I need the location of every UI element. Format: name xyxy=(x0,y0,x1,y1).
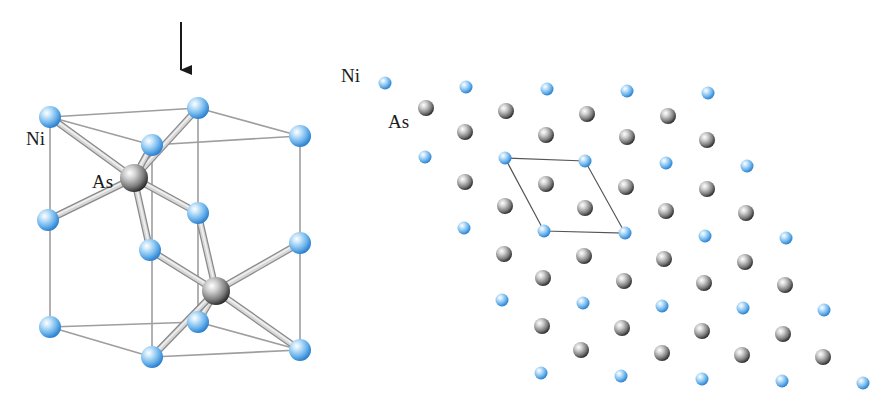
as-atom xyxy=(538,127,554,143)
as-atom xyxy=(202,277,230,305)
ni-atom xyxy=(460,81,473,94)
ni-atom xyxy=(496,294,509,307)
ni-atom xyxy=(187,311,209,333)
as-atom xyxy=(737,254,753,270)
ni-atom xyxy=(289,232,311,254)
as-atom xyxy=(577,200,593,216)
as-atom xyxy=(614,320,630,336)
ni-atom xyxy=(776,375,789,388)
cell-edge xyxy=(50,322,198,327)
ni-atom xyxy=(39,316,61,338)
as-atom xyxy=(457,124,473,140)
as-label-projection: As xyxy=(388,111,409,132)
as-atom xyxy=(775,326,791,342)
as-atom xyxy=(535,270,551,286)
as-atom xyxy=(573,342,589,358)
as-atom xyxy=(576,248,592,264)
as-atom xyxy=(734,347,750,363)
as-label: As xyxy=(92,171,113,192)
ni-atom xyxy=(741,160,754,173)
ni-atom xyxy=(379,77,392,90)
ni-atom xyxy=(37,209,59,231)
ni-atom xyxy=(857,377,870,390)
ni-atom xyxy=(187,202,209,224)
lattice-projection-panel: Ni As xyxy=(341,65,870,390)
ni-atom xyxy=(818,304,831,317)
as-atom xyxy=(694,323,710,339)
bond xyxy=(50,116,134,178)
as-atom xyxy=(777,277,793,293)
as-atom xyxy=(699,132,715,148)
ni-atom xyxy=(139,239,161,261)
ni-atom xyxy=(696,373,709,386)
ni-atom xyxy=(289,125,311,147)
ni-atom xyxy=(289,339,311,361)
as-atom xyxy=(619,129,635,145)
ni-atom xyxy=(699,230,712,243)
ni-atom xyxy=(499,152,512,165)
ni-atom xyxy=(187,97,209,119)
ni-atom xyxy=(419,151,432,164)
bond xyxy=(216,290,300,350)
as-atom xyxy=(538,176,554,192)
as-atom xyxy=(618,179,634,195)
as-atom xyxy=(815,349,831,365)
as-atom xyxy=(660,108,676,124)
bond xyxy=(216,242,300,291)
cell-edge xyxy=(198,108,300,136)
ni-atom xyxy=(656,300,669,313)
bonds xyxy=(48,107,300,357)
nias-structure-figure: Ni As Ni As xyxy=(0,0,878,398)
ni-atom xyxy=(141,134,163,156)
as-atom xyxy=(579,106,595,122)
cell-edge xyxy=(152,350,300,357)
as-atom xyxy=(616,273,632,289)
as-atom xyxy=(654,345,670,361)
ni-atom xyxy=(737,302,750,315)
as-atoms xyxy=(120,164,230,305)
ni-atom xyxy=(39,106,61,128)
ni-atom xyxy=(579,155,592,168)
as-atom xyxy=(699,181,715,197)
ni-atom xyxy=(141,346,163,368)
as-atom xyxy=(696,275,712,291)
as-atom xyxy=(418,100,434,116)
as-atom xyxy=(738,205,754,221)
cell-edge xyxy=(50,327,152,357)
ni-atom xyxy=(577,297,590,310)
unit-cell-outline xyxy=(505,158,625,233)
as-atom xyxy=(457,174,473,190)
ni-atom xyxy=(780,232,793,245)
ni-atom xyxy=(458,222,471,235)
cell-edge xyxy=(50,108,198,117)
ni-atom xyxy=(615,370,628,383)
ni-atom xyxy=(538,225,551,238)
as-atom xyxy=(496,246,512,262)
as-atom xyxy=(534,318,550,334)
ni-atoms-projection xyxy=(379,77,870,390)
ni-atom xyxy=(702,87,715,100)
as-atom xyxy=(658,203,674,219)
ni-atom xyxy=(535,367,548,380)
bond xyxy=(48,177,134,220)
as-atom xyxy=(120,164,148,192)
ni-label-projection: Ni xyxy=(341,65,360,86)
unit-cell-perspective-panel: Ni As xyxy=(26,22,311,368)
as-atom xyxy=(498,103,514,119)
ni-label: Ni xyxy=(26,128,45,149)
as-atom xyxy=(497,198,513,214)
ni-atom xyxy=(660,157,673,170)
ni-atom xyxy=(619,227,632,240)
ni-atom xyxy=(541,83,554,96)
ni-atom xyxy=(621,85,634,98)
as-atom xyxy=(656,251,672,267)
